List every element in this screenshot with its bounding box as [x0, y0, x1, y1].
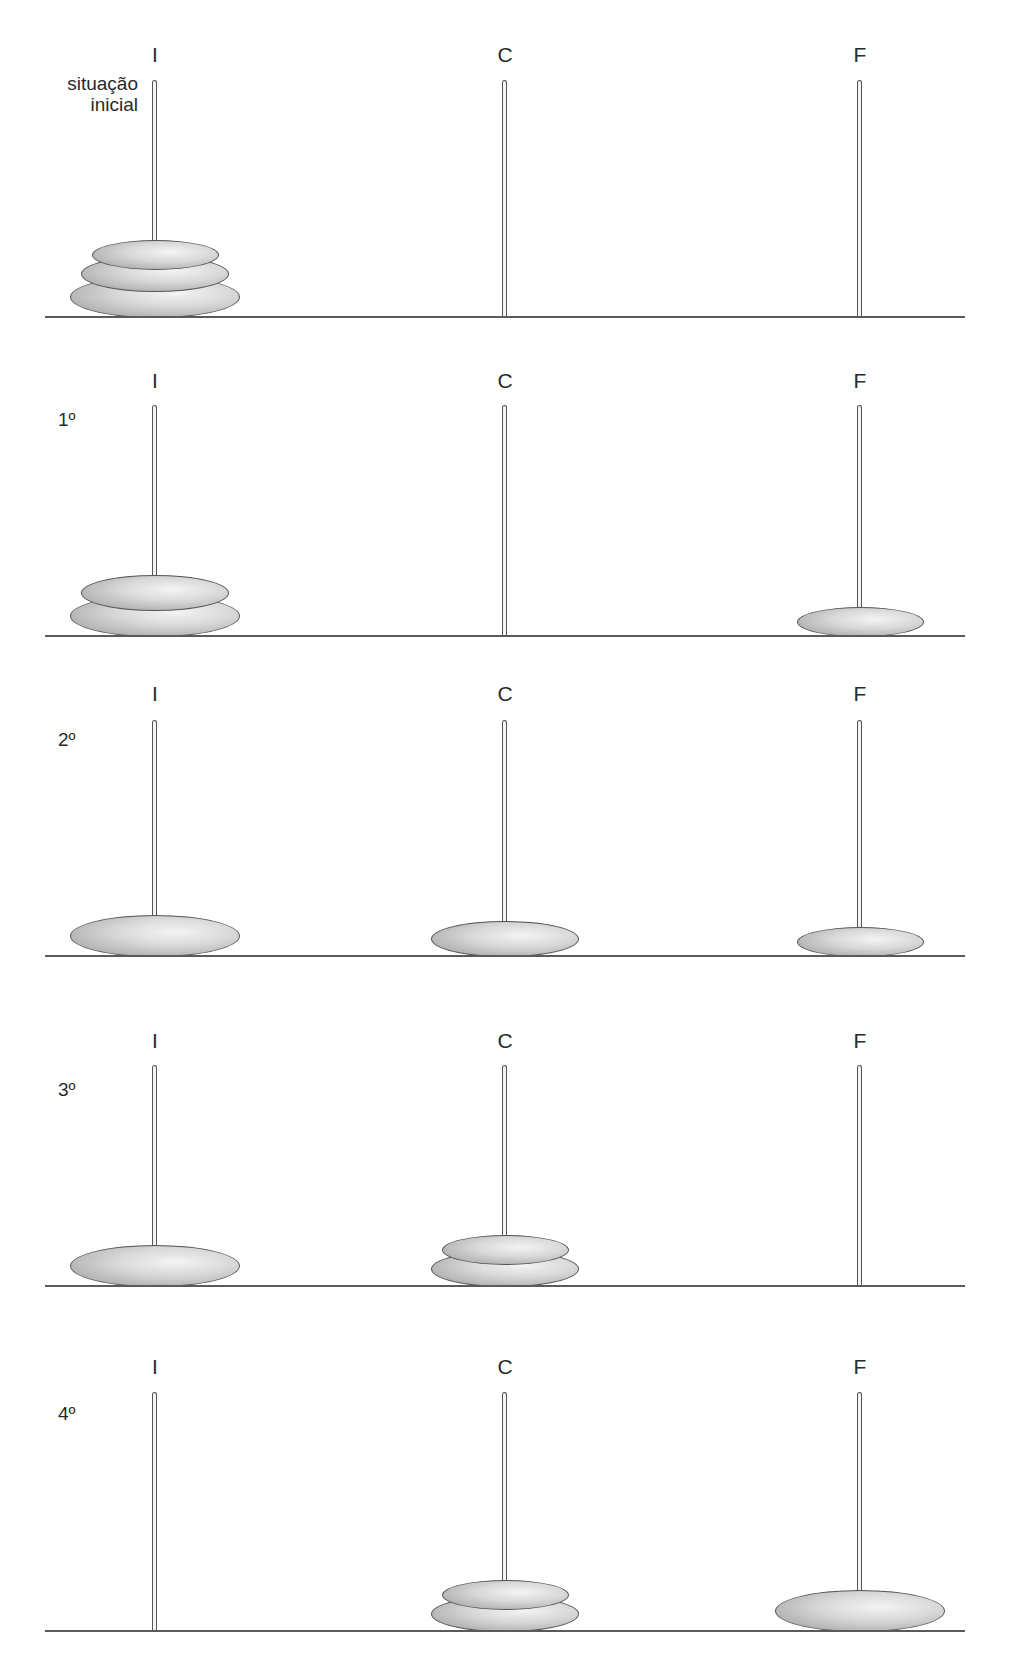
step-label-line: situação: [50, 74, 138, 95]
step-label: 4º: [58, 1404, 76, 1425]
disk-medium[interactable]: [81, 575, 229, 611]
peg-label-C: C: [497, 1030, 512, 1051]
peg-label-F: F: [854, 1356, 867, 1377]
disk-small[interactable]: [92, 240, 219, 270]
peg-label-I: I: [152, 44, 158, 65]
peg-label-I: I: [152, 370, 158, 391]
disk-small[interactable]: [442, 1235, 569, 1265]
peg-label-I: I: [152, 1356, 158, 1377]
step-label-line: inicial: [50, 95, 138, 116]
pole-C: [502, 80, 507, 316]
peg-label-C: C: [497, 1356, 512, 1377]
baseline: [45, 1285, 965, 1287]
step-label: 1º: [58, 410, 76, 431]
pole-F: [857, 405, 862, 635]
peg-label-F: F: [854, 683, 867, 704]
peg-label-F: F: [854, 44, 867, 65]
step-label: situaçãoinicial: [50, 74, 138, 116]
disk-large[interactable]: [70, 1245, 240, 1287]
step-label: 3º: [58, 1080, 76, 1101]
disk-medium[interactable]: [431, 921, 579, 957]
disk-small[interactable]: [797, 607, 924, 637]
disk-small[interactable]: [797, 927, 924, 957]
pole-F: [857, 1065, 862, 1285]
pole-I: [152, 1392, 157, 1630]
pole-F: [857, 80, 862, 316]
baseline: [45, 635, 965, 637]
baseline: [45, 1630, 965, 1632]
pole-C: [502, 720, 507, 955]
disk-large[interactable]: [775, 1590, 945, 1632]
peg-label-F: F: [854, 370, 867, 391]
disk-large[interactable]: [70, 915, 240, 957]
peg-label-C: C: [497, 683, 512, 704]
peg-label-C: C: [497, 370, 512, 391]
peg-label-I: I: [152, 1030, 158, 1051]
pole-F: [857, 720, 862, 955]
baseline: [45, 955, 965, 957]
disk-small[interactable]: [442, 1580, 569, 1610]
peg-label-I: I: [152, 683, 158, 704]
pole-C: [502, 405, 507, 635]
peg-label-C: C: [497, 44, 512, 65]
peg-label-F: F: [854, 1030, 867, 1051]
baseline: [45, 316, 965, 318]
step-label: 2º: [58, 730, 76, 751]
